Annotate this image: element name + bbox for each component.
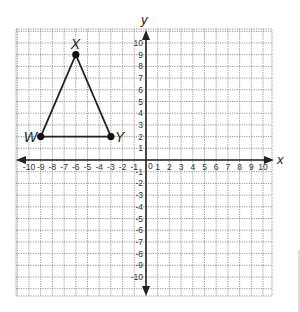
vertex-point-y bbox=[107, 133, 114, 140]
y-tick-label: -9 bbox=[135, 260, 143, 270]
y-tick-label: -5 bbox=[135, 214, 143, 224]
vertex-point-x bbox=[72, 51, 79, 58]
y-tick-label: 7 bbox=[138, 73, 143, 83]
y-tick-label: 1 bbox=[138, 143, 143, 153]
origin-label: 0 bbox=[148, 161, 153, 171]
y-tick-label: -4 bbox=[135, 202, 143, 212]
y-tick-label: -6 bbox=[135, 225, 143, 235]
x-tick-label: 1 bbox=[155, 162, 160, 172]
y-axis-down-arrow-icon bbox=[142, 286, 150, 296]
y-tick-label: 5 bbox=[138, 97, 143, 107]
x-tick-label: -3 bbox=[107, 162, 115, 172]
vertex-point-w bbox=[37, 133, 44, 140]
x-tick-label: -9 bbox=[37, 162, 45, 172]
y-tick-label: -1 bbox=[135, 167, 143, 177]
x-tick-label: 3 bbox=[179, 162, 184, 172]
x-tick-label: -2 bbox=[119, 162, 127, 172]
x-axis-label: x bbox=[276, 152, 284, 167]
y-tick-label: -3 bbox=[135, 190, 143, 200]
y-tick-label: 2 bbox=[138, 132, 143, 142]
x-tick-label: -4 bbox=[95, 162, 103, 172]
x-tick-label: -10 bbox=[23, 162, 36, 172]
y-tick-label: -10 bbox=[131, 272, 144, 282]
y-tick-label: -2 bbox=[135, 178, 143, 188]
x-tick-label: 9 bbox=[249, 162, 254, 172]
y-tick-label: -7 bbox=[135, 237, 143, 247]
triangle-edges bbox=[41, 55, 111, 137]
x-tick-label: 6 bbox=[214, 162, 219, 172]
x-tick-label: 4 bbox=[190, 162, 195, 172]
axes: x y 0 bbox=[16, 12, 284, 296]
y-tick-label: 9 bbox=[138, 50, 143, 60]
y-tick-label: 4 bbox=[138, 108, 143, 118]
x-tick-label: -6 bbox=[72, 162, 80, 172]
x-tick-label: -7 bbox=[60, 162, 68, 172]
coordinate-plane: x y 0 -10-9-8-7-6-5-4-3-2-11234567891010… bbox=[0, 0, 300, 312]
y-tick-label: 8 bbox=[138, 61, 143, 71]
vertex-label-w: W bbox=[24, 129, 39, 145]
x-tick-label: 5 bbox=[202, 162, 207, 172]
y-tick-label: 6 bbox=[138, 85, 143, 95]
x-tick-label: -8 bbox=[49, 162, 57, 172]
x-tick-label: 8 bbox=[237, 162, 242, 172]
y-tick-label: 10 bbox=[134, 38, 144, 48]
y-tick-label: -8 bbox=[135, 249, 143, 259]
y-tick-label: 3 bbox=[138, 120, 143, 130]
x-tick-label: 7 bbox=[226, 162, 231, 172]
x-tick-label: 10 bbox=[258, 162, 268, 172]
x-tick-label: 2 bbox=[167, 162, 172, 172]
x-tick-label: -5 bbox=[84, 162, 92, 172]
vertex-label-x: X bbox=[70, 36, 81, 52]
y-axis-label: y bbox=[140, 12, 149, 27]
